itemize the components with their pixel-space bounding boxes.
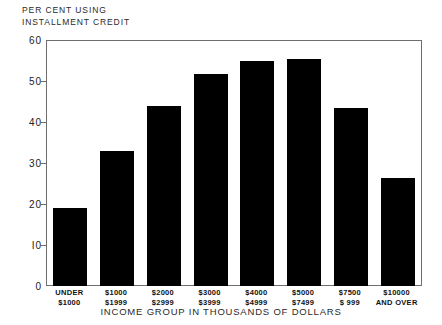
x-axis-tick-label-line: $2000 (140, 288, 187, 298)
y-axis-tick-label: 60 (18, 35, 42, 46)
bar (147, 106, 181, 286)
bar-chart: PER CENT USINGINSTALLMENT CREDIT 0I02030… (0, 0, 442, 325)
x-axis-tick-label: $10000AND OVER (373, 288, 420, 307)
x-axis-tick-label-line: $5000 (280, 288, 327, 298)
y-axis-tick-label: 30 (18, 158, 42, 169)
x-axis-tick-label: $5000$7499 (280, 288, 327, 307)
x-axis-tick-label-line: UNDER (46, 288, 93, 298)
x-axis-tick-label: UNDER$1000 (46, 288, 93, 307)
x-axis-tick-label-line: $4000 (233, 288, 280, 298)
y-axis-tick-label: 0 (18, 281, 42, 292)
x-axis-tick-label: $2000$2999 (140, 288, 187, 307)
bar (194, 74, 228, 286)
x-axis-tick-label: $7500$ 999 (327, 288, 374, 307)
bar (381, 178, 415, 286)
x-axis-tick-label-line: $7500 (327, 288, 374, 298)
x-axis-tick-label-line: $10000 (373, 288, 420, 298)
y-axis-tick-label: 50 (18, 76, 42, 87)
bars-layer (47, 41, 421, 286)
x-axis-tick-label: $4000$4999 (233, 288, 280, 307)
bar (334, 108, 368, 286)
bar (287, 59, 321, 286)
bar (53, 208, 87, 286)
x-axis-title: INCOME GROUP IN THOUSANDS OF DOLLARS (0, 306, 442, 317)
y-axis-tick-label: 40 (18, 117, 42, 128)
x-axis-tick-label: $3000$3999 (186, 288, 233, 307)
y-axis-tick-label: I0 (18, 240, 42, 251)
y-axis-tick-label: 20 (18, 199, 42, 210)
x-axis-tick-label-line: $1000 (93, 288, 140, 298)
bar (240, 61, 274, 286)
bar (100, 151, 134, 286)
x-axis-tick-label-line: $3000 (186, 288, 233, 298)
x-axis-tick-label: $1000$1999 (93, 288, 140, 307)
y-axis-tick-labels: 0I02030405060 (12, 0, 42, 325)
